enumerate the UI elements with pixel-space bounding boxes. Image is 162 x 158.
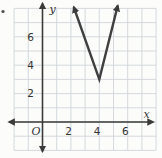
cropped-list-number-dot <box>1 10 4 13</box>
origin-label: O <box>31 125 40 138</box>
graph-canvas: 246246 y x O <box>0 0 162 158</box>
x-axis-label: x <box>143 108 150 121</box>
x-tick-label: 6 <box>122 125 129 137</box>
y-tick-label: 6 <box>27 31 34 43</box>
y-tick-label: 2 <box>27 87 34 99</box>
coordinate-grid-figure: 246246 y x O <box>0 0 162 158</box>
x-tick-label: 4 <box>94 125 101 137</box>
y-axis-label: y <box>49 3 57 16</box>
x-tick-label: 2 <box>65 125 72 137</box>
y-tick-label: 4 <box>27 59 34 71</box>
